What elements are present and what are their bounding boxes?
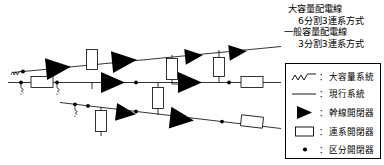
drop-switch-symbols <box>21 83 77 117</box>
tie-switch-box-l1[interactable] <box>96 111 107 132</box>
legend-separator-5: ： <box>319 143 328 155</box>
section-switch-dot-l3[interactable] <box>134 110 138 114</box>
legend-separator-1: ： <box>319 70 328 82</box>
section-switch-dot-l1[interactable] <box>73 102 77 106</box>
legend-item-existing-system: ： 現行系統 <box>286 86 382 103</box>
section-switch-dot-m3[interactable] <box>134 81 138 85</box>
legend-label-4: 連系開閉器 <box>329 125 374 137</box>
figure-title: 大容量配電線 6分割3連系方式 一般容量配電線 3分割3連系方式 <box>284 3 384 49</box>
legend-label-1: 大容量系統 <box>329 70 374 82</box>
trunk-switch-icon-l2[interactable] <box>169 107 195 132</box>
legend-label-2: 現行系統 <box>329 87 365 99</box>
drop-switch-icon-1 <box>21 83 23 95</box>
trunk-switch-icon-u2[interactable] <box>111 49 138 73</box>
title-line-1: 大容量配電線 <box>284 3 384 15</box>
legend-separator-3: ： <box>319 106 328 118</box>
figure-canvas: 大容量配電線 6分割3連系方式 一般容量配電線 3分割3連系方式 ： 大容量系統… <box>0 0 384 165</box>
legend-item-trunk-switch: ： 幹線開閉器 <box>286 103 382 122</box>
section-switch-dot-m2[interactable] <box>55 81 59 85</box>
title-line-4: 3分割3連系方式 <box>284 38 384 50</box>
section-switch-dot-m1[interactable] <box>19 81 23 85</box>
tie-switch-box-u2[interactable] <box>167 59 178 80</box>
drop-switch-icon-3 <box>75 105 77 117</box>
trunk-switch-icon-l1[interactable] <box>115 103 137 123</box>
section-switch-dot-l4[interactable] <box>220 120 224 124</box>
tie-switches <box>31 50 264 132</box>
legend-item-tie-switch: ： 連系開閉器 <box>286 122 382 141</box>
legend-label-5: 区分開閉器 <box>329 143 374 155</box>
trunk-switch-icon-u4[interactable] <box>228 43 247 61</box>
trunk-switch-icon-u1[interactable] <box>45 56 72 80</box>
legend-separator-2: ： <box>319 87 328 99</box>
legend-box: ： 大容量系統 ： 現行系統 ： 幹線開閉器 ： 連系開閉器 <box>285 63 381 159</box>
legend-item-large-capacity-system: ： 大容量系統 <box>286 68 382 85</box>
open-rectangle-icon <box>294 125 316 138</box>
filled-dot-icon <box>294 143 316 156</box>
trunk-switches <box>45 43 248 131</box>
legend-label-3: 幹線開閉器 <box>329 106 374 118</box>
wavy-line-icon <box>291 71 317 83</box>
tie-switch-box-u3[interactable] <box>214 58 225 77</box>
drop-switch-icon-2 <box>57 83 59 95</box>
title-line-2: 6分割3連系方式 <box>284 15 384 27</box>
title-line-3: 一般容量配電線 <box>284 26 384 38</box>
section-switch-dot-m4[interactable] <box>227 81 231 85</box>
trunk-switch-icon-m1[interactable] <box>101 72 125 93</box>
tie-switch-box-m1[interactable] <box>153 88 164 109</box>
section-switch-dot-l2[interactable] <box>86 104 90 108</box>
filled-triangle-icon <box>295 105 315 120</box>
tie-switch-box-l-right[interactable] <box>240 115 263 128</box>
legend-item-section-switch: ： 区分開閉器 <box>286 140 382 159</box>
straight-line-icon <box>291 91 317 97</box>
legend-separator-4: ： <box>319 125 328 137</box>
trunk-switch-icon-u3[interactable] <box>184 47 203 65</box>
tie-switch-box-u1[interactable] <box>87 50 98 70</box>
trunk-switch-icon-m2[interactable] <box>178 72 202 93</box>
section-switch-dot-u1[interactable] <box>21 70 25 74</box>
tie-switch-box-m-right[interactable] <box>241 77 263 88</box>
